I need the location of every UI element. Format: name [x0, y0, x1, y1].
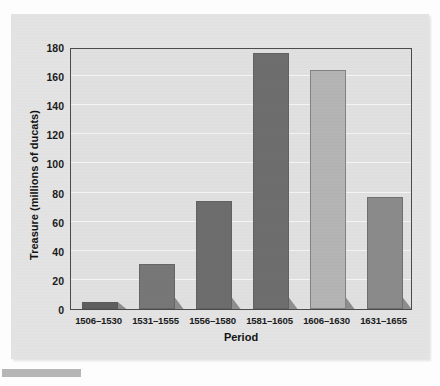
x-tick-label: 1631–1655: [355, 315, 412, 326]
bar-shadow: [175, 297, 184, 309]
bar: [196, 201, 232, 309]
y-tick-label: 160: [28, 72, 64, 82]
bar: [367, 197, 403, 309]
x-tick-label: 1606–1630: [298, 315, 355, 326]
x-axis-title: Period: [70, 331, 412, 343]
bar-shadow: [346, 297, 355, 309]
gridline: [71, 133, 411, 134]
bar-shadow: [403, 297, 412, 309]
gridline: [71, 221, 411, 222]
bar: [253, 53, 289, 309]
plot-area: [70, 48, 412, 310]
bar-body: [82, 302, 118, 309]
bar: [139, 264, 175, 309]
bar-body: [196, 201, 232, 309]
y-tick-label: 180: [28, 43, 64, 53]
bar-shadow: [118, 302, 127, 309]
gridline: [71, 279, 411, 280]
x-axis-ticks: 1506–15301531–15551556–15801581–16051606…: [70, 315, 412, 331]
gridline: [71, 104, 411, 105]
y-axis-title: Treasure (millions of ducats): [28, 85, 40, 285]
gridline: [71, 162, 411, 163]
gridline: [71, 250, 411, 251]
bar-body: [139, 264, 175, 309]
bar-body: [367, 197, 403, 309]
scan-edge-artifact: [2, 369, 81, 377]
bar-body: [310, 70, 346, 309]
y-tick-label: 0: [28, 305, 64, 315]
gridline: [71, 75, 411, 76]
bar-body: [253, 53, 289, 309]
bar-shadow: [289, 297, 298, 309]
x-tick-label: 1531–1555: [127, 315, 184, 326]
x-tick-label: 1581–1605: [241, 315, 298, 326]
gridline: [71, 192, 411, 193]
x-tick-label: 1556–1580: [184, 315, 241, 326]
bar-shadow: [232, 297, 241, 309]
x-tick-label: 1506–1530: [70, 315, 127, 326]
bar: [310, 70, 346, 309]
bar: [82, 302, 118, 309]
